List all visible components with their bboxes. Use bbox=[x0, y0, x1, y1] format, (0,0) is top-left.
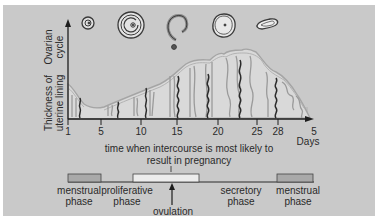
phase-label-menstrual: menstrual phase bbox=[57, 185, 101, 207]
phase-label-line2: phase bbox=[220, 196, 261, 207]
ovarian-cycle-label: Ovarian cycle bbox=[43, 22, 65, 72]
ovarian-label-line2: cycle bbox=[54, 22, 65, 72]
lining-label-line2: uterine lining bbox=[54, 71, 65, 135]
phase-label-line2: phase bbox=[57, 196, 101, 207]
tick-label: 10 bbox=[135, 126, 146, 137]
uterine-lining bbox=[68, 49, 310, 119]
corpus-luteum-icon bbox=[213, 14, 235, 37]
phase-label-line1: secretory bbox=[220, 185, 261, 196]
phase-label-line2: phase bbox=[276, 196, 320, 207]
phase-label-line2: phase bbox=[101, 196, 153, 207]
lining-label-line1: Thickness of bbox=[43, 71, 54, 135]
tick-label: 20 bbox=[212, 126, 223, 137]
annotation-line2: result in pregnancy bbox=[147, 155, 232, 166]
ovulation-arrowhead bbox=[169, 183, 175, 190]
menstrual-phase-bar bbox=[68, 174, 101, 182]
ovarian-label-line1: Ovarian bbox=[43, 22, 54, 72]
annotation-line1: time when intercourse is most likely to bbox=[105, 143, 273, 154]
tick-label: 5 bbox=[98, 126, 104, 137]
phase-label-secretory: secretory phase bbox=[220, 185, 261, 207]
ruptured-follicle-icon bbox=[168, 16, 187, 50]
tick-label: 25 bbox=[251, 126, 262, 137]
phase-label-line1: proliferative bbox=[101, 185, 153, 196]
days-unit-label: Days bbox=[297, 136, 320, 147]
mature-follicle-icon bbox=[118, 12, 144, 38]
ovulation-label: ovulation bbox=[153, 206, 193, 217]
phase-label-line1: menstrual bbox=[57, 185, 101, 196]
phase-label-menstrual-2: menstrual phase bbox=[276, 185, 320, 207]
corpus-albicans-icon bbox=[257, 19, 278, 29]
tick-label: 15 bbox=[171, 126, 182, 137]
phase-label-line1: menstrual bbox=[276, 185, 320, 196]
y-axis-arrowhead bbox=[65, 19, 71, 27]
menstrual-phase-bar-2 bbox=[277, 174, 313, 182]
x-axis-ticks bbox=[68, 119, 278, 125]
tick-label: 28 bbox=[272, 126, 283, 137]
fertile-window-bar bbox=[133, 174, 199, 182]
primary-follicle-icon bbox=[82, 17, 94, 29]
uterine-lining-label: Thickness of uterine lining bbox=[43, 71, 65, 135]
tick-label: 1 bbox=[65, 126, 71, 137]
phase-label-proliferative: proliferative phase bbox=[101, 185, 153, 207]
